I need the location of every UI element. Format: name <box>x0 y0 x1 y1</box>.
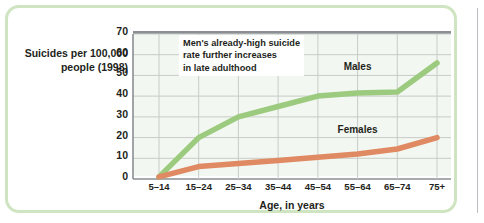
figure-panel: Suicides per 100,000 people (1998) 01020… <box>5 5 457 213</box>
x-tick-label: 15–24 <box>185 176 211 192</box>
x-tick-label: 35–44 <box>265 176 291 192</box>
x-tick-label: 45–54 <box>305 176 331 192</box>
x-tick-label: 65–74 <box>384 176 410 192</box>
series-label-males: Males <box>344 61 372 72</box>
y-axis-caption: Suicides per 100,000 people (1998) <box>20 46 128 74</box>
y-tick-label: 20 <box>116 129 133 141</box>
x-axis-title: Age, in years <box>133 199 451 211</box>
y-tick-label: 0 <box>122 170 133 182</box>
series-label-females: Females <box>338 124 378 135</box>
x-tick-label: 5–14 <box>148 176 169 192</box>
page-rule <box>477 8 478 213</box>
plot-area-wrapper: 010203040506070 5–1415–2425–3435–4445–54… <box>133 31 451 176</box>
y-tick-label: 50 <box>116 66 133 78</box>
y-tick-label: 10 <box>116 149 133 161</box>
y-tick-label: 40 <box>116 87 133 99</box>
x-tick-label: 55–64 <box>344 176 370 192</box>
x-tick-label: 75+ <box>429 176 445 192</box>
chart-annotation: Men's already-high suicide rate further … <box>179 35 304 76</box>
y-tick-label: 30 <box>116 108 133 120</box>
y-tick-label: 70 <box>116 25 133 37</box>
x-tick-label: 25–34 <box>225 176 251 192</box>
y-tick-label: 60 <box>116 46 133 58</box>
